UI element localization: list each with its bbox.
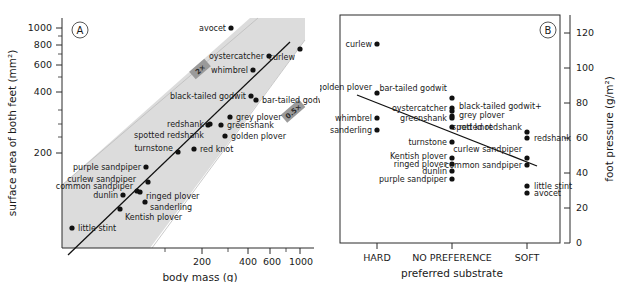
point-label-bar-tailed-godwit: bar-tailed godwit	[379, 84, 447, 93]
point-label-red-knot: red knot	[200, 145, 233, 154]
point-grey-plover[interactable]	[227, 114, 232, 119]
point-label-grey-plover: grey plover	[236, 113, 282, 122]
panel-b-points: curlew golden plover whimbrel sanderling…	[320, 40, 572, 198]
point-label-curlew-sandpiper: curlew sandpiper	[453, 145, 523, 154]
point-label-whimbrel: whimbrel	[211, 66, 248, 75]
panel-b-svg: 120 100 80 60 40 20 0 foot pressure (g/m…	[320, 0, 627, 282]
point-redshank[interactable]	[524, 135, 529, 140]
point-black-tailed-godwit-plus[interactable]	[449, 108, 454, 113]
panel-b-ytick-40: 40	[576, 167, 588, 178]
point-label-kentish-plover: Kentish plover	[125, 213, 183, 222]
point-golden-plover[interactable]	[222, 133, 227, 138]
panel-b-y-axis	[564, 15, 570, 243]
figure-container: 1000 800 600 400 200 200 400 600 1000 bo…	[0, 0, 627, 282]
point-avocet[interactable]	[524, 190, 529, 195]
point-redshank[interactable]	[207, 121, 212, 126]
point-label-curlew: curlew	[346, 40, 373, 49]
point-label-bar-tailed-godwit: bar-tailed godwit	[262, 96, 320, 105]
point-label-dunlin: dunlin	[93, 191, 118, 200]
point-label-curlew: curlew	[269, 53, 296, 62]
panel-a-id-label: A	[77, 25, 84, 36]
panel-a-xtick-600: 600	[263, 256, 281, 267]
point-bar-tailed-godwit[interactable]	[253, 97, 258, 102]
panel-b-id-label: B	[545, 25, 552, 36]
point-curlew[interactable]	[374, 41, 379, 46]
panel-a-ytick-1000: 1000	[28, 22, 52, 33]
point-label-oystercatcher: oystercatcher	[209, 52, 265, 61]
point-ringed-plover[interactable]	[137, 189, 142, 194]
point-spotted-redshank[interactable]	[524, 129, 529, 134]
panel-a-svg: 1000 800 600 400 200 200 400 600 1000 bo…	[0, 0, 320, 282]
panel-a-xtick-400: 400	[239, 256, 257, 267]
panel-b-id: B	[540, 22, 556, 38]
panel-b-y-axis-title: foot pressure (g/m²)	[603, 76, 615, 182]
point-label-little-stint: little stint	[78, 224, 116, 233]
point-label-common-sandpiper: common sandpiper	[445, 161, 523, 170]
point-label-avocet: avocet	[534, 189, 561, 198]
point-turnstone[interactable]	[175, 149, 180, 154]
point-label-avocet: avocet	[199, 24, 226, 33]
point-common-sandpiper[interactable]	[524, 162, 529, 167]
panel-b-frame	[340, 15, 560, 243]
point-label-black-tailed-godwit-plus: black-tailed godwit+	[459, 102, 542, 111]
panel-b-ytick-100: 100	[576, 62, 594, 73]
point-label-purple-sandpiper: purple sandpiper	[73, 163, 142, 172]
panel-b-x-axis	[377, 243, 527, 249]
point-whimbrel[interactable]	[250, 67, 255, 72]
point-label-curlew-sandpiper: curlew sandpiper	[67, 175, 137, 184]
point-label-purple-sandpiper: purple sandpiper	[379, 175, 448, 184]
point-label-black-tailed-godwit: black-tailed godwit	[170, 92, 246, 101]
point-label-redshank: redshank	[167, 120, 204, 129]
point-label-sanderling: sanderling	[150, 203, 192, 212]
point-label-golden-plover: golden plover	[231, 132, 287, 141]
panel-b-ytick-60: 60	[576, 132, 588, 143]
point-curlew-sandpiper[interactable]	[524, 155, 529, 160]
panel-a-xtick-200: 200	[193, 256, 211, 267]
panel-b-xcat-hard: HARD	[363, 252, 391, 263]
point-label-turnstone: turnstone	[134, 144, 173, 153]
point-label-golden-plover: golden plover	[320, 83, 373, 92]
point-label-grey-plover: grey plover	[459, 111, 505, 120]
point-little-stint[interactable]	[524, 183, 529, 188]
point-greenshank[interactable]	[218, 122, 223, 127]
panel-a-xtick-1000: 1000	[289, 256, 313, 267]
panel-b-ytick-80: 80	[576, 97, 588, 108]
panel-b-xcat-no-preference: NO PREFERENCE	[412, 252, 492, 263]
point-curlew[interactable]	[297, 46, 302, 51]
point-kentish-plover[interactable]	[117, 206, 122, 211]
panel-b: 120 100 80 60 40 20 0 foot pressure (g/m…	[320, 0, 627, 282]
point-greenshank[interactable]	[449, 115, 454, 120]
point-purple-sandpiper[interactable]	[449, 176, 454, 181]
point-red-knot[interactable]	[191, 146, 196, 151]
point-purple-sandpiper[interactable]	[143, 164, 148, 169]
panel-b-ytick-20: 20	[576, 202, 588, 213]
panel-a-y-axis-title: surface area of both feet (mm²)	[6, 50, 18, 216]
panel-b-ytick-120: 120	[576, 27, 594, 38]
point-label-spotted-redshank: spotted redshank	[134, 131, 204, 140]
point-label-redshank: redshank	[534, 134, 571, 143]
panel-a-ytick-200: 200	[34, 147, 52, 158]
point-little-stint[interactable]	[69, 225, 74, 230]
point-label-turnstone: turnstone	[408, 138, 447, 147]
panel-a-ytick-800: 800	[34, 39, 52, 50]
point-label-oystercatcher: oystercatcher	[392, 104, 448, 113]
point-label-spotted-redshank: spotted redshank	[452, 123, 522, 132]
point-label-ringed-plover: ringed plover	[146, 192, 200, 201]
point-label-greenshank: greenshank	[400, 114, 447, 123]
panel-b-ytick-0: 0	[576, 237, 582, 248]
panel-a-ytick-600: 600	[34, 59, 52, 70]
point-kentish-plover[interactable]	[449, 155, 454, 160]
panel-b-xcat-soft: SOFT	[515, 252, 540, 263]
panel-a-ytick-400: 400	[34, 86, 52, 97]
point-sanderling[interactable]	[374, 127, 379, 132]
point-turnstone[interactable]	[449, 139, 454, 144]
point-dunlin[interactable]	[120, 192, 125, 197]
panel-a-id: A	[72, 22, 88, 38]
panel-a: 1000 800 600 400 200 200 400 600 1000 bo…	[0, 0, 320, 282]
point-avocet[interactable]	[228, 25, 233, 30]
point-curlew-sandpiper[interactable]	[145, 179, 150, 184]
point-black-tailed-godwit[interactable]	[248, 93, 253, 98]
point-whimbrel[interactable]	[374, 115, 379, 120]
point-bar-tailed-godwit[interactable]	[449, 95, 454, 100]
point-label-greenshank: greenshank	[227, 121, 274, 130]
